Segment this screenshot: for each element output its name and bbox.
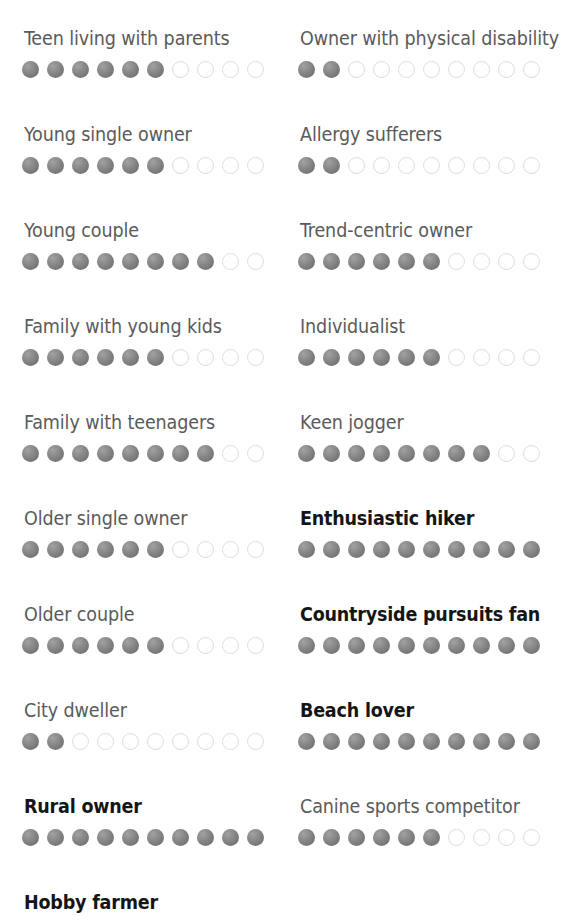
rating-dot-empty-icon (498, 829, 515, 846)
rating-dot-empty-icon (523, 445, 540, 462)
rating-dot-filled-icon (323, 253, 340, 270)
rating-dot-filled-icon (197, 829, 214, 846)
rating-dot-filled-icon (398, 829, 415, 846)
rating-dot-scale (22, 539, 287, 559)
rating-dot-filled-icon (147, 445, 164, 462)
rating-dot-empty-icon (222, 61, 239, 78)
rating-dot-filled-icon (298, 829, 315, 846)
rating-row: Enthusiastic hiker (298, 502, 563, 598)
rating-row-label: Teen living with parents (24, 22, 287, 50)
rating-dot-empty-icon (97, 733, 114, 750)
rating-row: Young couple (22, 214, 287, 310)
rating-dot-filled-icon (398, 733, 415, 750)
rating-dot-filled-icon (523, 541, 540, 558)
rating-dot-scale (298, 443, 563, 463)
rating-row: Rural owner (22, 790, 287, 886)
rating-row: Young single owner (22, 118, 287, 214)
rating-dot-filled-icon (72, 157, 89, 174)
rating-dot-empty-icon (247, 157, 264, 174)
rating-dot-scale (22, 347, 287, 367)
rating-dot-empty-icon (348, 61, 365, 78)
rating-row: Trend-centric owner (298, 214, 563, 310)
rating-dot-scale (22, 251, 287, 271)
rating-dot-empty-icon (222, 733, 239, 750)
rating-dot-empty-icon (398, 157, 415, 174)
rating-row-label: Family with young kids (24, 310, 287, 338)
rating-dot-empty-icon (398, 61, 415, 78)
rating-row: Countryside pursuits fan (298, 598, 563, 694)
rating-dot-filled-icon (448, 637, 465, 654)
rating-dot-filled-icon (72, 637, 89, 654)
rating-dot-filled-icon (97, 253, 114, 270)
rating-dot-empty-icon (222, 637, 239, 654)
rating-dot-filled-icon (348, 349, 365, 366)
rating-dot-filled-icon (323, 541, 340, 558)
rating-dot-empty-icon (498, 253, 515, 270)
rating-dot-filled-icon (323, 829, 340, 846)
rating-row-label: Family with teenagers (24, 406, 287, 434)
rating-dot-filled-icon (22, 637, 39, 654)
rating-row: Owner with physical disability (298, 22, 563, 118)
rating-dot-empty-icon (222, 445, 239, 462)
rating-row: Hobby farmer (22, 886, 287, 916)
rating-dot-empty-icon (247, 349, 264, 366)
rating-dot-filled-icon (398, 445, 415, 462)
rating-dot-empty-icon (222, 349, 239, 366)
rating-dot-empty-icon (247, 61, 264, 78)
rating-dot-filled-icon (197, 253, 214, 270)
rating-dot-filled-icon (498, 733, 515, 750)
rating-dot-filled-icon (122, 253, 139, 270)
rating-dot-scale (22, 443, 287, 463)
rating-row: Keen jogger (298, 406, 563, 502)
rating-dot-empty-icon (473, 253, 490, 270)
rating-row-label: Enthusiastic hiker (300, 502, 563, 530)
rating-row-label: Keen jogger (300, 406, 563, 434)
rating-dot-filled-icon (47, 157, 64, 174)
rating-dot-filled-icon (498, 637, 515, 654)
rating-dot-filled-icon (423, 445, 440, 462)
rating-dot-filled-icon (298, 733, 315, 750)
rating-dot-empty-icon (247, 445, 264, 462)
rating-dot-filled-icon (122, 157, 139, 174)
rating-dot-scale (298, 155, 563, 175)
rating-dot-empty-icon (473, 157, 490, 174)
rating-dot-filled-icon (323, 61, 340, 78)
rating-dot-filled-icon (348, 733, 365, 750)
rating-dot-empty-icon (423, 61, 440, 78)
rating-row-label: Older single owner (24, 502, 287, 530)
rating-dot-filled-icon (423, 733, 440, 750)
rating-dot-filled-icon (323, 157, 340, 174)
rating-dot-scale (22, 155, 287, 175)
rating-dot-empty-icon (197, 637, 214, 654)
rating-dot-filled-icon (298, 541, 315, 558)
rating-dot-empty-icon (197, 61, 214, 78)
rating-dot-empty-icon (498, 349, 515, 366)
rating-dot-filled-icon (97, 157, 114, 174)
rating-row-label: Older couple (24, 598, 287, 626)
rating-dot-filled-icon (473, 541, 490, 558)
rating-dot-scale (298, 635, 563, 655)
rating-row-label: Owner with physical disability (300, 22, 563, 50)
rating-row-label: Countryside pursuits fan (300, 598, 563, 626)
rating-dot-empty-icon (172, 61, 189, 78)
rating-dot-filled-icon (298, 637, 315, 654)
rating-dot-filled-icon (147, 253, 164, 270)
rating-dot-filled-icon (22, 157, 39, 174)
rating-dot-filled-icon (97, 829, 114, 846)
rating-dot-empty-icon (473, 349, 490, 366)
rating-dot-empty-icon (247, 253, 264, 270)
rating-dot-filled-icon (523, 637, 540, 654)
rating-dot-empty-icon (172, 733, 189, 750)
rating-dot-filled-icon (423, 541, 440, 558)
rating-dot-filled-icon (97, 349, 114, 366)
rating-dot-filled-icon (122, 61, 139, 78)
rating-row: Allergy sufferers (298, 118, 563, 214)
rating-dot-empty-icon (473, 61, 490, 78)
rating-dot-filled-icon (423, 829, 440, 846)
rating-row: Individualist (298, 310, 563, 406)
rating-dot-filled-icon (448, 445, 465, 462)
rating-dot-filled-icon (147, 829, 164, 846)
rating-row: Older couple (22, 598, 287, 694)
rating-dot-filled-icon (72, 253, 89, 270)
rating-dot-filled-icon (373, 637, 390, 654)
